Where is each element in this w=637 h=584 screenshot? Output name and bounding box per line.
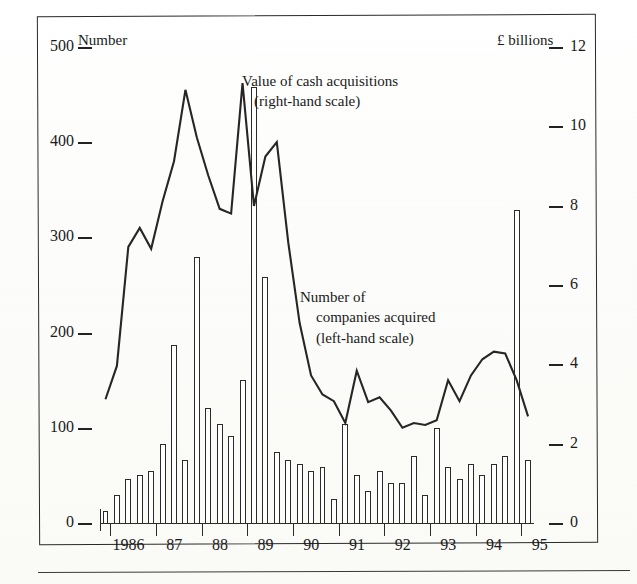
x-axis-tick [521,523,522,536]
figure-footer-rule [38,570,630,573]
annotation-number-line2: companies acquired [300,307,436,327]
right-axis-tick-dash [549,444,563,446]
x-axis-tick [339,523,340,536]
left-axis-tick-label: 400 [40,133,74,149]
x-axis-year-label: 1986 [113,536,145,554]
x-axis-tick [247,523,248,536]
right-axis-tick-label: 12 [570,38,586,54]
x-axis-tick [110,523,111,536]
right-axis-tick-label: 8 [570,197,578,213]
left-axis-tick-dash [78,237,92,239]
left-axis-tick-dash [78,142,92,144]
figure-page: Number £ billions 0100200300400500 02468… [0,0,637,584]
right-axis-tick-label: 4 [570,355,578,371]
right-axis-tick-dash [549,523,563,525]
annotation-number-line3: (left-hand scale) [300,328,436,348]
left-axis-tick-dash [78,523,92,525]
x-axis-tick [156,523,157,536]
x-axis-tick [430,523,431,536]
x-axis-tick [202,523,203,536]
right-axis-tick-label: 0 [570,514,578,530]
annotation-value-line1: Value of cash acquisitions [242,73,398,89]
left-axis-tick-label: 200 [40,324,74,340]
x-axis-tick [293,523,294,536]
x-axis-year-label: 88 [212,536,228,554]
x-axis-year-label: 89 [258,536,274,554]
right-axis-tick-dash [549,285,563,287]
left-axis-tick-dash [78,47,92,49]
line-series-number-of-companies-acquired [100,47,534,523]
right-axis-tick-dash [549,206,563,208]
x-axis-line [100,523,534,524]
plot-area [100,47,534,523]
x-axis-year-label: 87 [166,536,182,554]
right-axis-tick-dash [549,126,563,128]
annotation-value-line2: (right-hand scale) [242,91,398,111]
left-axis-tick-label: 0 [40,514,74,530]
x-axis-tick [476,523,477,536]
right-axis-tick-dash [549,47,563,49]
right-axis-caption: £ billions [497,33,553,48]
left-axis-caption: Number [78,33,127,48]
annotation-number-line1: Number of [300,289,365,305]
left-axis-tick-dash [78,333,92,335]
x-axis-year-label: 90 [303,536,319,554]
right-axis-tick-dash [549,364,563,366]
x-axis-year-label: 95 [532,536,548,554]
x-axis-year-label: 93 [440,536,456,554]
annotation-number-of-companies: Number of companies acquired (left-hand … [300,287,436,348]
right-axis-tick-label: 6 [570,276,578,292]
right-axis-tick-label: 2 [570,435,578,451]
left-axis-tick-label: 500 [40,38,74,54]
x-axis-year-label: 91 [349,536,365,554]
annotation-value-of-cash-acquisitions: Value of cash acquisitions (right-hand s… [242,71,398,112]
x-axis-tick [384,523,385,536]
left-axis-tick-dash [78,428,92,430]
left-axis-tick-label: 100 [40,419,74,435]
x-axis-year-label: 92 [395,536,411,554]
right-axis-tick-label: 10 [570,117,586,133]
left-axis-tick-label: 300 [40,228,74,244]
x-axis-year-label: 94 [486,536,502,554]
